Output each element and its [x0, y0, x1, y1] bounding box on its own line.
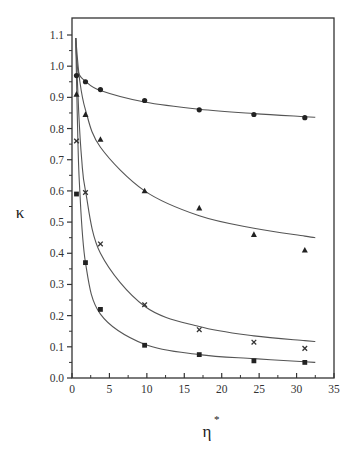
- fit-curve-crosses: [76, 38, 316, 341]
- data-point-triangles: [196, 205, 202, 211]
- data-point-circles: [83, 79, 88, 84]
- data-point-squares: [302, 360, 307, 365]
- x-axis-label-superscript: *: [214, 413, 220, 425]
- x-tick-label: 15: [179, 383, 191, 395]
- fit-curve-circles: [76, 38, 316, 117]
- plot-border: [72, 18, 334, 378]
- data-point-triangles: [302, 247, 308, 253]
- data-point-crosses: [303, 346, 308, 351]
- data-point-triangles: [97, 136, 103, 142]
- data-point-circles: [302, 115, 307, 120]
- y-tick-label: 0.5: [50, 216, 65, 228]
- x-tick-label: 35: [328, 383, 340, 395]
- data-point-crosses: [197, 327, 202, 332]
- x-tick-label: 5: [107, 383, 113, 395]
- data-point-squares: [197, 352, 202, 357]
- data-point-circles: [98, 87, 103, 92]
- y-tick-label: 0.8: [50, 123, 65, 135]
- data-point-triangles: [73, 91, 79, 97]
- x-axis-label: η: [203, 422, 212, 441]
- fit-curve-triangles: [76, 38, 316, 238]
- y-tick-label: 0.2: [50, 310, 65, 322]
- x-tick-label: 25: [253, 383, 265, 395]
- data-point-circles: [197, 107, 202, 112]
- x-tick-label: 20: [216, 383, 228, 395]
- data-point-squares: [98, 307, 103, 312]
- y-tick-label: 0.4: [50, 247, 65, 259]
- y-axis: 0.00.10.20.30.40.50.60.70.80.91.01.1: [50, 29, 72, 384]
- data-point-squares: [252, 358, 257, 363]
- y-tick-label: 0.9: [50, 91, 65, 103]
- data-point-squares: [83, 260, 88, 265]
- y-axis-label: κ: [16, 203, 25, 222]
- x-tick-label: 30: [291, 383, 303, 395]
- data-point-triangles: [251, 231, 257, 237]
- y-tick-label: 0.0: [50, 372, 65, 384]
- x-axis: 05101520253035: [69, 373, 340, 395]
- fit-curves: [76, 38, 316, 362]
- y-tick-label: 0.1: [50, 341, 65, 353]
- x-tick-label: 0: [69, 383, 75, 395]
- y-tick-label: 1.1: [50, 29, 65, 41]
- data-point-triangles: [142, 188, 148, 194]
- data-point-circles: [142, 98, 147, 103]
- y-tick-label: 0.3: [50, 278, 65, 290]
- data-point-triangles: [82, 111, 88, 117]
- y-tick-label: 1.0: [50, 60, 65, 72]
- data-points: [73, 73, 307, 365]
- data-point-circles: [251, 112, 256, 117]
- y-tick-label: 0.7: [50, 154, 65, 166]
- data-point-crosses: [98, 242, 103, 247]
- data-point-squares: [142, 343, 147, 348]
- y-tick-label: 0.6: [50, 185, 65, 197]
- data-point-squares: [74, 192, 79, 197]
- plot-frame: [72, 18, 334, 378]
- data-point-circles: [74, 73, 79, 78]
- x-tick-label: 10: [141, 383, 153, 395]
- chart: 05101520253035 0.00.10.20.30.40.50.60.70…: [0, 0, 356, 451]
- fit-curve-squares: [76, 38, 316, 362]
- data-point-crosses: [252, 340, 257, 345]
